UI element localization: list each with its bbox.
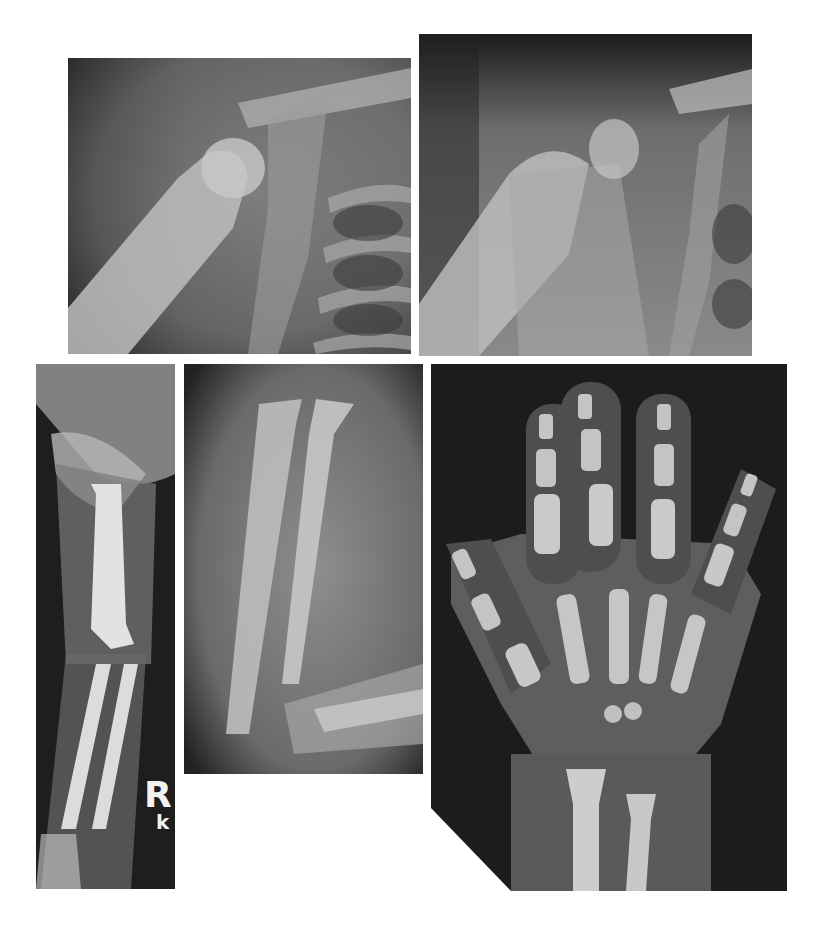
side-marker-label: R bbox=[144, 777, 172, 813]
shoulder-xray-image bbox=[68, 58, 411, 354]
radiograph-shoulder-2 bbox=[419, 34, 752, 356]
hand-xray-image bbox=[431, 364, 787, 891]
radiograph-arm: R k bbox=[36, 364, 175, 889]
side-marker-sub: k bbox=[156, 810, 169, 834]
radiograph-hand bbox=[431, 364, 787, 891]
side-marker-sublabel: k bbox=[156, 812, 169, 832]
side-marker-letter: R bbox=[144, 774, 172, 815]
radiograph-shoulder-1 bbox=[68, 58, 411, 354]
shoulder-xray-image bbox=[419, 34, 752, 356]
radiograph-forearm bbox=[184, 364, 423, 774]
forearm-xray-image bbox=[184, 364, 423, 774]
